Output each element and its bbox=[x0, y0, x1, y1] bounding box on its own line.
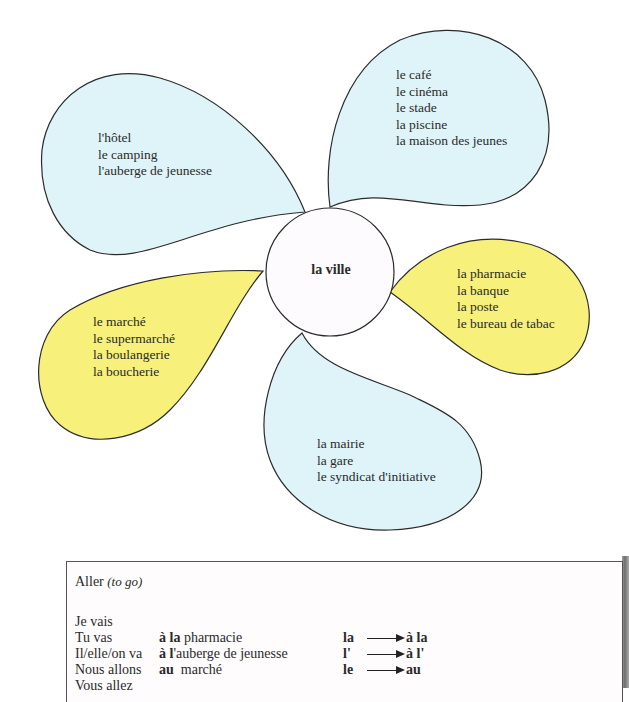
list-item: la boucherie bbox=[93, 364, 175, 381]
list-item: le camping bbox=[98, 147, 212, 164]
conjugation-row: Tu vas bbox=[75, 630, 142, 646]
conjugation-row: Vous allez bbox=[75, 678, 142, 694]
rule-to: au bbox=[406, 662, 421, 678]
conjugation-row: Nous allons bbox=[75, 662, 142, 678]
page-edge-shadow bbox=[622, 556, 629, 688]
list-item: le cinéma bbox=[396, 84, 507, 101]
conjugation-list: Je vais Tu vas Il/elle/on va Nous allons… bbox=[75, 614, 142, 694]
conjugation-row: Il/elle/on va bbox=[75, 646, 142, 662]
petal-bottom-items: la mairie la gare le syndicat d'initiati… bbox=[317, 436, 436, 486]
rule-from: la bbox=[343, 630, 367, 646]
conjugation-row: Je vais bbox=[75, 614, 142, 630]
example-prep: au bbox=[159, 662, 174, 677]
list-item: le supermarché bbox=[93, 331, 175, 348]
grammar-title: Aller (to go) bbox=[75, 574, 142, 590]
petal-top-left-items: l'hôtel le camping l'auberge de jeunesse bbox=[98, 130, 212, 180]
verb-translation: (to go) bbox=[107, 574, 142, 589]
list-item: le syndicat d'initiative bbox=[317, 469, 436, 486]
examples-list: à la pharmacie à l'auberge de jeunesse a… bbox=[159, 630, 288, 678]
petal-left-items: le marché le supermarché la boulangerie … bbox=[93, 314, 175, 380]
list-item: l'hôtel bbox=[98, 130, 212, 147]
list-item: le stade bbox=[396, 100, 507, 117]
example-prep: à l bbox=[159, 646, 173, 661]
petal-bottom bbox=[264, 333, 481, 530]
example-row: au marché bbox=[159, 662, 288, 678]
verb-title: Aller bbox=[75, 574, 104, 589]
rule-from: l' bbox=[343, 646, 367, 662]
list-item: la pharmacie bbox=[457, 266, 555, 283]
list-item: la gare bbox=[317, 453, 436, 470]
example-noun: 'auberge de jeunesse bbox=[173, 646, 287, 661]
example-noun: pharmacie bbox=[180, 630, 242, 645]
example-row: à la pharmacie bbox=[159, 630, 288, 646]
list-item: la maison des jeunes bbox=[396, 133, 507, 150]
center-label: la ville bbox=[296, 262, 366, 278]
contraction-rules: la à la l' à l' le au bbox=[343, 630, 427, 678]
list-item: la mairie bbox=[317, 436, 436, 453]
rule-row: la à la bbox=[343, 630, 427, 646]
rule-to: à l' bbox=[406, 646, 424, 662]
list-item: l'auberge de jeunesse bbox=[98, 163, 212, 180]
petal-right-items: la pharmacie la banque la poste le burea… bbox=[457, 266, 555, 332]
example-noun: marché bbox=[174, 662, 222, 677]
example-prep: à la bbox=[159, 630, 180, 645]
petal-top-right-items: le café le cinéma le stade la piscine la… bbox=[396, 67, 507, 150]
list-item: la boulangerie bbox=[93, 347, 175, 364]
list-item: la poste bbox=[457, 299, 555, 316]
rule-to: à la bbox=[406, 630, 427, 646]
arrow-right-icon bbox=[367, 633, 405, 643]
rule-from: le bbox=[343, 662, 367, 678]
example-row: à l'auberge de jeunesse bbox=[159, 646, 288, 662]
rule-row: le au bbox=[343, 662, 427, 678]
grammar-box: Aller (to go) Je vais Tu vas Il/elle/on … bbox=[66, 561, 623, 702]
list-item: le café bbox=[396, 67, 507, 84]
arrow-right-icon bbox=[367, 665, 405, 675]
list-item: le marché bbox=[93, 314, 175, 331]
list-item: le bureau de tabac bbox=[457, 316, 555, 333]
arrow-right-icon bbox=[367, 649, 405, 659]
list-item: la banque bbox=[457, 283, 555, 300]
vocabulary-flower-diagram: la ville l'hôtel le camping l'auberge de… bbox=[0, 0, 629, 540]
rule-row: l' à l' bbox=[343, 646, 427, 662]
list-item: la piscine bbox=[396, 117, 507, 134]
